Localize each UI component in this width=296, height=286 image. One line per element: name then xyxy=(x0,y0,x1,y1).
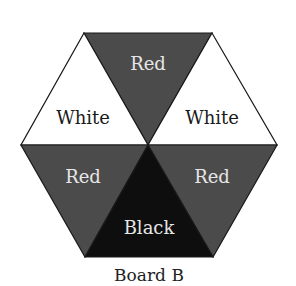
segment-bottom-label: Black xyxy=(124,217,176,238)
board-caption: Board B xyxy=(114,265,184,285)
segment-upper-right-label: White xyxy=(185,107,239,128)
segment-top-label: Red xyxy=(130,53,166,74)
hexagon-board: Red White White Red Red Black Board B xyxy=(0,0,296,286)
segment-lower-right-label: Red xyxy=(194,166,230,187)
segment-lower-left-label: Red xyxy=(65,166,101,187)
segment-upper-left-label: White xyxy=(56,107,110,128)
